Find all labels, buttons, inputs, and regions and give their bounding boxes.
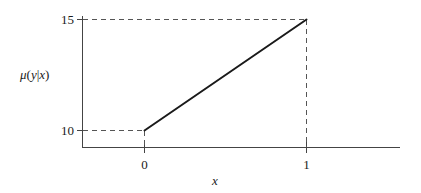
x-tick-label-0: 0 <box>134 158 155 171</box>
y-axis-title-close-paren: ) <box>45 67 49 82</box>
data-series-line <box>145 20 307 131</box>
x-tick-label-1: 1 <box>296 158 317 171</box>
x-axis-title: x <box>212 174 218 187</box>
y-tick-label-10: 10 <box>52 124 74 137</box>
line-chart-canvas <box>0 0 421 193</box>
y-tick-label-15: 15 <box>52 13 74 26</box>
y-axis-title: μ(y|x) <box>20 68 49 81</box>
figure-container: 15 10 0 1 μ(y|x) x <box>0 0 421 193</box>
